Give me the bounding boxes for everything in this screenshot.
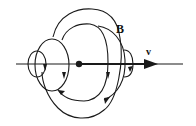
point-charge [76, 61, 82, 67]
field-label: B [116, 22, 124, 36]
field-diagram: B v [0, 0, 196, 126]
loop-arrow-icon [104, 97, 110, 104]
velocity-arrow-icon [144, 59, 158, 69]
loop-arrow-icon [62, 72, 66, 79]
velocity-label: v [146, 46, 151, 57]
loop-arrow-icon [43, 64, 47, 71]
field-loop-4 [58, 24, 108, 101]
field-loop-2 [35, 39, 69, 91]
loop-arrow-icon [58, 90, 65, 95]
